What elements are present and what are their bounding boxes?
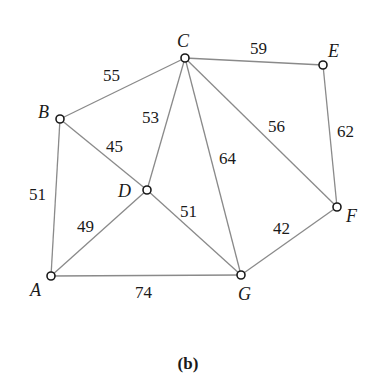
vertex-D: [143, 186, 151, 194]
edge-weight-G-F: 42: [273, 219, 290, 238]
vertex-label-B: B: [38, 102, 49, 122]
vertex-label-E: E: [327, 41, 339, 61]
edge-weight-A-B: 51: [29, 185, 46, 204]
edge-B-C: [60, 58, 185, 119]
figure-caption: (b): [178, 354, 199, 373]
edge-weight-B-D: 45: [106, 137, 123, 156]
vertex-G: [237, 271, 245, 279]
vertex-label-G: G: [238, 284, 251, 304]
edge-weight-E-F: 62: [337, 122, 354, 141]
edge-weight-A-G: 74: [135, 283, 153, 302]
vertex-F: [333, 203, 341, 211]
edge-B-D: [60, 119, 147, 190]
edge-A-D: [51, 190, 147, 276]
vertex-label-D: D: [117, 181, 131, 201]
edge-weight-B-C: 55: [103, 66, 120, 85]
edge-A-B: [51, 119, 60, 276]
edges: [51, 58, 337, 276]
weighted-graph: 515545535964566249517442 ABCDEFG (b): [0, 0, 376, 386]
edge-weight-A-D: 49: [77, 217, 94, 236]
edge-C-E: [185, 58, 323, 65]
edge-weight-C-D: 53: [142, 108, 159, 127]
edge-C-F: [185, 58, 337, 207]
vertex-E: [319, 61, 327, 69]
edge-weights: 515545535964566249517442: [29, 39, 354, 302]
vertex-label-F: F: [345, 206, 358, 226]
vertex-label-A: A: [29, 280, 42, 300]
edge-weight-C-E: 59: [250, 39, 267, 58]
vertex-B: [56, 115, 64, 123]
edge-weight-D-G: 51: [180, 202, 197, 221]
vertex-labels: ABCDEFG: [29, 31, 358, 304]
edge-A-G: [51, 275, 241, 276]
vertex-A: [47, 272, 55, 280]
vertex-label-C: C: [177, 31, 190, 51]
edge-weight-C-F: 56: [268, 117, 285, 136]
vertex-C: [181, 54, 189, 62]
edge-E-F: [323, 65, 337, 207]
edge-weight-C-G: 64: [219, 149, 237, 168]
edge-G-F: [241, 207, 337, 275]
